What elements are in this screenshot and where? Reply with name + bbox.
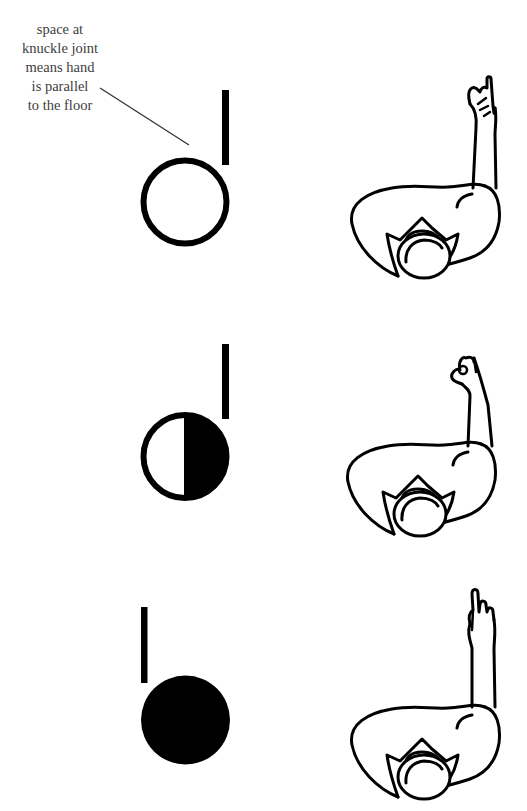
symbol-half-filled-circle [144, 344, 230, 498]
stem-right [222, 90, 229, 165]
stem-left [141, 607, 148, 683]
figure-top [351, 77, 499, 278]
stem-right [222, 344, 229, 419]
figure-bottom [351, 590, 499, 800]
symbol-filled-circle [141, 607, 230, 765]
diagram-canvas [0, 0, 527, 811]
hand-icon [452, 357, 474, 384]
figure-middle [347, 357, 495, 536]
leader-line [100, 88, 189, 145]
symbol-open-circle [144, 90, 230, 244]
